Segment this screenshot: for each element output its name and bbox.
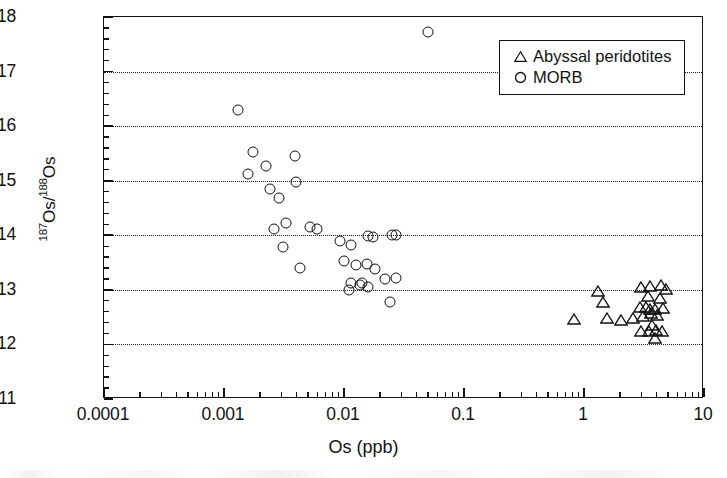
data-point-morb — [277, 242, 288, 253]
x-tick-minor — [445, 392, 446, 397]
y-tick-minor — [104, 311, 109, 312]
circle-marker-icon — [509, 71, 531, 84]
x-tick-minor — [641, 392, 642, 397]
y-tick-minor — [104, 104, 109, 105]
data-point-abyssal-peridotite — [656, 300, 670, 312]
y-tick-minor — [104, 376, 109, 377]
y-tick-label: 0.14 — [0, 224, 16, 245]
x-tick-minor — [557, 392, 558, 397]
x-tick-minor — [698, 392, 699, 397]
y-tick-minor — [104, 49, 109, 50]
x-tick-minor — [536, 392, 537, 397]
y-tick-minor — [104, 278, 109, 279]
y-tick-label: 0.15 — [0, 169, 16, 190]
x-tick-major — [223, 388, 225, 397]
x-tick-minor — [667, 392, 668, 397]
data-point-abyssal-peridotite — [659, 281, 673, 293]
x-tick-minor — [578, 392, 579, 397]
x-tick-label: 0.001 — [202, 404, 245, 425]
y-tick-minor — [104, 300, 109, 301]
y-tick-minor — [104, 333, 109, 334]
x-tick-label: 0.0001 — [77, 404, 129, 425]
data-point-morb — [243, 169, 254, 180]
x-tick-major — [703, 388, 705, 397]
y-tick-minor — [104, 136, 109, 137]
y-tick-major — [104, 234, 113, 236]
data-point-abyssal-peridotite — [600, 310, 614, 322]
y-tick-minor — [104, 60, 109, 61]
data-point-morb — [346, 240, 357, 251]
x-tick-minor — [685, 392, 686, 397]
data-point-abyssal-peridotite — [649, 322, 663, 334]
gridline — [104, 181, 702, 182]
y-axis-title-os: Os — [40, 157, 59, 179]
scatter-plot-figure: 187Os/188Os Os (ppb) 0.110.120.130.140.1… — [0, 0, 727, 478]
data-point-morb — [295, 263, 306, 274]
y-tick-label: 0.16 — [0, 115, 16, 136]
data-point-abyssal-peridotite — [655, 323, 669, 335]
y-axis-title-os-slash: Os/ — [40, 197, 59, 223]
y-axis-title-sup-188: 188 — [37, 178, 49, 196]
x-tick-minor — [218, 392, 219, 397]
scan-artifact — [0, 470, 727, 478]
data-point-morb — [346, 278, 357, 289]
data-point-abyssal-peridotite — [626, 310, 640, 322]
x-tick-minor — [656, 392, 657, 397]
y-tick-minor — [104, 213, 109, 214]
data-point-morb — [273, 193, 284, 204]
x-tick-minor — [176, 392, 177, 397]
x-tick-minor — [338, 392, 339, 397]
data-point-morb — [312, 223, 323, 234]
y-tick-minor — [104, 115, 109, 116]
x-tick-minor — [499, 392, 500, 397]
data-point-abyssal-peridotite — [591, 283, 605, 295]
x-tick-minor — [458, 392, 459, 397]
data-point-morb — [354, 280, 365, 291]
x-tick-minor — [197, 392, 198, 397]
data-point-abyssal-peridotite — [643, 301, 657, 313]
y-tick-minor — [104, 147, 109, 148]
legend-item-abyssal-peridotites: Abyssal peridotites — [509, 46, 672, 67]
data-point-abyssal-peridotite — [643, 278, 657, 290]
x-tick-minor — [379, 392, 380, 397]
x-tick-major — [583, 388, 585, 397]
x-tick-minor — [572, 392, 573, 397]
x-tick-minor — [677, 392, 678, 397]
data-point-morb — [343, 284, 354, 295]
x-tick-minor — [547, 392, 548, 397]
y-tick-minor — [104, 246, 109, 247]
x-tick-minor — [281, 392, 282, 397]
data-point-morb — [356, 278, 367, 289]
data-point-morb — [361, 258, 372, 269]
data-point-abyssal-peridotite — [645, 317, 659, 329]
data-point-abyssal-peridotite — [644, 305, 658, 317]
data-point-morb — [390, 230, 401, 241]
x-tick-major — [463, 388, 465, 397]
y-tick-minor — [104, 387, 109, 388]
x-tick-label: 10 — [693, 404, 712, 425]
x-tick-major — [343, 388, 345, 397]
gridline — [104, 235, 702, 236]
y-tick-minor — [104, 256, 109, 257]
data-point-morb — [339, 256, 350, 267]
data-point-morb — [380, 273, 391, 284]
data-point-abyssal-peridotite — [654, 277, 668, 289]
data-point-morb — [363, 231, 374, 242]
data-point-morb — [248, 146, 259, 157]
data-point-abyssal-peridotite — [633, 299, 647, 311]
y-tick-label: 0.12 — [0, 333, 16, 354]
data-point-abyssal-peridotite — [614, 312, 628, 324]
x-tick-minor — [565, 392, 566, 397]
data-point-morb — [335, 235, 346, 246]
legend-label-morb: MORB — [533, 68, 583, 87]
x-tick-minor — [416, 392, 417, 397]
data-point-abyssal-peridotite — [648, 301, 662, 313]
y-tick-minor — [104, 93, 109, 94]
data-point-morb — [232, 104, 243, 115]
x-tick-minor — [317, 392, 318, 397]
data-point-abyssal-peridotite — [653, 290, 667, 302]
y-axis-title: 187Os/188Os — [37, 157, 60, 242]
x-tick-label: 0.1 — [451, 404, 475, 425]
data-point-morb — [384, 296, 395, 307]
x-tick-minor — [401, 392, 402, 397]
